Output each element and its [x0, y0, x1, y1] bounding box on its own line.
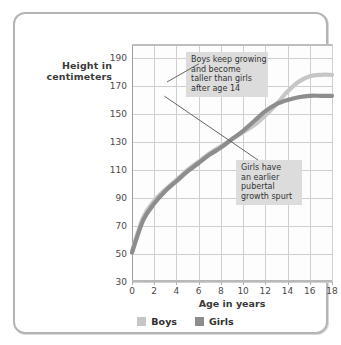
legend-swatch-girls-icon — [195, 317, 204, 326]
y-axis-tick-label: 130 — [110, 137, 127, 147]
x-axis-tick-label: 8 — [218, 286, 224, 296]
x-axis-tick-mark — [176, 282, 177, 285]
x-axis-tick-mark — [288, 282, 289, 285]
annotation-line: growth spurt — [241, 192, 297, 202]
annotation-line: taller than girls — [191, 74, 263, 84]
x-axis-tick-mark — [243, 282, 244, 285]
y-axis-title-line1: Height in — [62, 60, 112, 71]
y-axis-tick-label: 50 — [116, 249, 127, 259]
x-axis-tick-label: 0 — [129, 286, 135, 296]
annotation-line: after age 14 — [191, 84, 263, 94]
legend-label-boys: Boys — [151, 316, 177, 327]
x-axis-tick-label: 6 — [196, 286, 202, 296]
chart-frame: Height in centimeters 305070901101301501… — [13, 12, 328, 334]
y-axis-tick-label: 70 — [116, 221, 127, 231]
line-series-boys — [132, 75, 332, 252]
annotation-line: Boys keep growing — [191, 55, 263, 65]
x-axis-tick-label: 14 — [282, 286, 293, 296]
x-axis-tick-mark — [310, 282, 311, 285]
y-axis-title-line2: centimeters — [47, 71, 112, 82]
legend-label-girls: Girls — [209, 316, 234, 327]
y-axis-title: Height in centimeters — [40, 60, 112, 82]
gridline-horizontal — [132, 282, 332, 283]
annotation-boys-growth: Boys keep growingand becometaller than g… — [186, 52, 268, 97]
x-axis-tick-label: 12 — [260, 286, 271, 296]
y-axis-tick-label: 150 — [110, 109, 127, 119]
x-axis-tick-label: 18 — [326, 286, 337, 296]
y-axis-tick-label: 30 — [116, 277, 127, 287]
x-axis-tick-label: 16 — [304, 286, 315, 296]
legend-item-girls: Girls — [195, 316, 234, 327]
x-axis-tick-mark — [154, 282, 155, 285]
x-axis-tick-mark — [132, 282, 133, 285]
x-axis-tick-mark — [199, 282, 200, 285]
line-series-girls — [132, 96, 332, 253]
x-axis-tick-mark — [332, 282, 333, 285]
x-axis-tick-mark — [221, 282, 222, 285]
annotation-girls-spurt: Girls havean earlierpubertalgrowth spurt — [236, 160, 302, 205]
chart-screenshot: Height in centimeters 305070901101301501… — [0, 0, 341, 345]
y-axis-tick-label: 110 — [110, 165, 127, 175]
y-axis-tick-label: 90 — [116, 193, 127, 203]
y-axis-tick-label: 190 — [110, 53, 127, 63]
legend-item-boys: Boys — [137, 316, 177, 327]
chart-legend: Boys Girls — [28, 316, 341, 327]
legend-swatch-boys-icon — [137, 317, 146, 326]
x-axis-tick-label: 10 — [237, 286, 248, 296]
annotation-line: pubertal — [241, 182, 297, 192]
x-axis-title: Age in years — [132, 298, 332, 309]
annotation-line: Girls have — [241, 163, 297, 173]
x-axis-tick-mark — [265, 282, 266, 285]
gridline-vertical — [332, 44, 333, 282]
x-axis-tick-label: 2 — [151, 286, 157, 296]
annotation-line: and become — [191, 65, 263, 75]
y-axis-tick-label: 170 — [110, 81, 127, 91]
annotation-line: an earlier — [241, 173, 297, 183]
x-axis-tick-label: 4 — [174, 286, 180, 296]
